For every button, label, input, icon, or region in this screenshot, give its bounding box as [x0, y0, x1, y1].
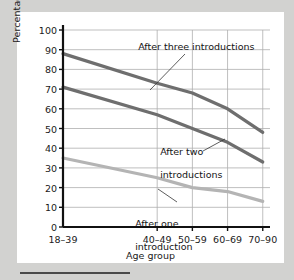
y-tick-label: 90 [45, 44, 57, 55]
figure-panel: Percentage of names recalled Age group 0… [17, 12, 284, 263]
x-tick-label: 70–90 [248, 234, 277, 245]
y-tick-label: 40 [45, 143, 57, 154]
y-tick-label: 0 [51, 222, 57, 233]
y-axis-title: Percentage of names recalled [11, 0, 22, 46]
annotation-one-line1: After one [135, 218, 179, 229]
y-tick-label: 60 [45, 103, 57, 114]
y-tick-label: 10 [45, 202, 57, 213]
x-tick-label: 60–69 [213, 234, 242, 245]
annotation-after-two-introductions: After two introductions [142, 134, 222, 192]
annotation-three-line1: After three introductions [138, 41, 254, 52]
series-line-0 [63, 54, 263, 133]
bottom-rule [20, 272, 130, 274]
x-tick-label: 18–39 [49, 234, 78, 245]
annotation-two-line1: After two [160, 146, 203, 157]
y-tick-label: 30 [45, 162, 57, 173]
y-tick-label: 50 [45, 123, 57, 134]
y-tick-label: 100 [39, 25, 57, 36]
figure-root: Percentage of names recalled Age group 0… [0, 0, 294, 280]
y-tick-label: 70 [45, 84, 57, 95]
annotation-one-line2: introduction [135, 241, 192, 252]
annotation-two-line2: introductions [160, 169, 222, 180]
annotation-after-three-introductions: After three introductions [120, 29, 254, 64]
y-tick-label: 20 [45, 182, 57, 193]
annotation-after-one-introduction: After one introduction [117, 206, 193, 264]
y-tick-label: 80 [45, 64, 57, 75]
